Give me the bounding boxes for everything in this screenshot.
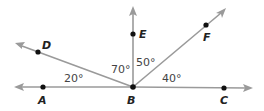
angle-ebf: 50° — [136, 56, 156, 69]
label-d: D — [42, 39, 51, 52]
label-e: E — [139, 28, 147, 41]
point-b — [130, 84, 136, 90]
point-a — [40, 84, 45, 89]
angle-dbe: 70° — [111, 63, 131, 76]
ray-bc — [133, 84, 253, 92]
angle-fbc: 40° — [162, 72, 182, 85]
point-c — [221, 85, 226, 90]
label-b: B — [127, 94, 135, 107]
angle-abd: 20° — [64, 72, 84, 85]
label-c: C — [220, 94, 228, 107]
label-a: A — [37, 94, 47, 107]
point-d — [35, 49, 40, 54]
point-f — [203, 22, 208, 27]
label-f: F — [203, 31, 211, 44]
arrowhead-icon — [15, 42, 25, 49]
point-e — [130, 31, 135, 36]
angle-diagram: D E F A B C 20° 70° 50° 40° — [0, 0, 264, 111]
